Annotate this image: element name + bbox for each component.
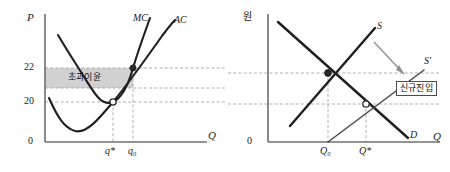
supply-shift-arrow <box>374 42 404 74</box>
supply-shifted-label: S′ <box>424 56 431 66</box>
demand-curve <box>278 22 408 138</box>
marginal-cost-label: MC <box>133 13 148 23</box>
new-entry-annotation: 신규진입 <box>396 81 437 96</box>
average-cost-label: AC <box>174 15 187 25</box>
right-x-tick-Q-zero: Q₀ <box>320 146 331 156</box>
right-x-axis-label: Q <box>433 131 441 142</box>
min-ac-point <box>110 99 116 105</box>
left-origin-label: 0 <box>28 136 33 146</box>
left-x-axis-label: Q <box>208 130 216 141</box>
marginal-cost-curve <box>58 18 150 103</box>
left-y-tick-20: 20 <box>24 96 34 106</box>
excess-profit-label: 초과이윤 <box>68 73 101 82</box>
mc-price-point <box>130 65 136 71</box>
right-origin-label: 0 <box>247 136 252 146</box>
demand-curve-label: D <box>410 130 417 140</box>
left-x-tick-q-star: q* <box>105 146 115 156</box>
economics-figure: P Q 22 20 0 q* q₀ MC AC 초과이윤 원 Q 0 Q₀ Q*… <box>0 0 450 172</box>
left-y-tick-22: 22 <box>24 62 34 72</box>
supply-curve-label: S <box>377 21 382 31</box>
right-panel-graphics <box>228 14 440 142</box>
right-x-tick-Q-star: Q* <box>359 146 371 156</box>
left-y-axis-label: P <box>27 12 34 23</box>
left-x-tick-q-zero: q₀ <box>128 146 136 156</box>
initial-equilibrium-point <box>325 70 332 77</box>
figure-canvas <box>0 0 450 172</box>
new-equilibrium-point <box>363 101 369 107</box>
right-y-axis-label: 원 <box>243 12 252 22</box>
